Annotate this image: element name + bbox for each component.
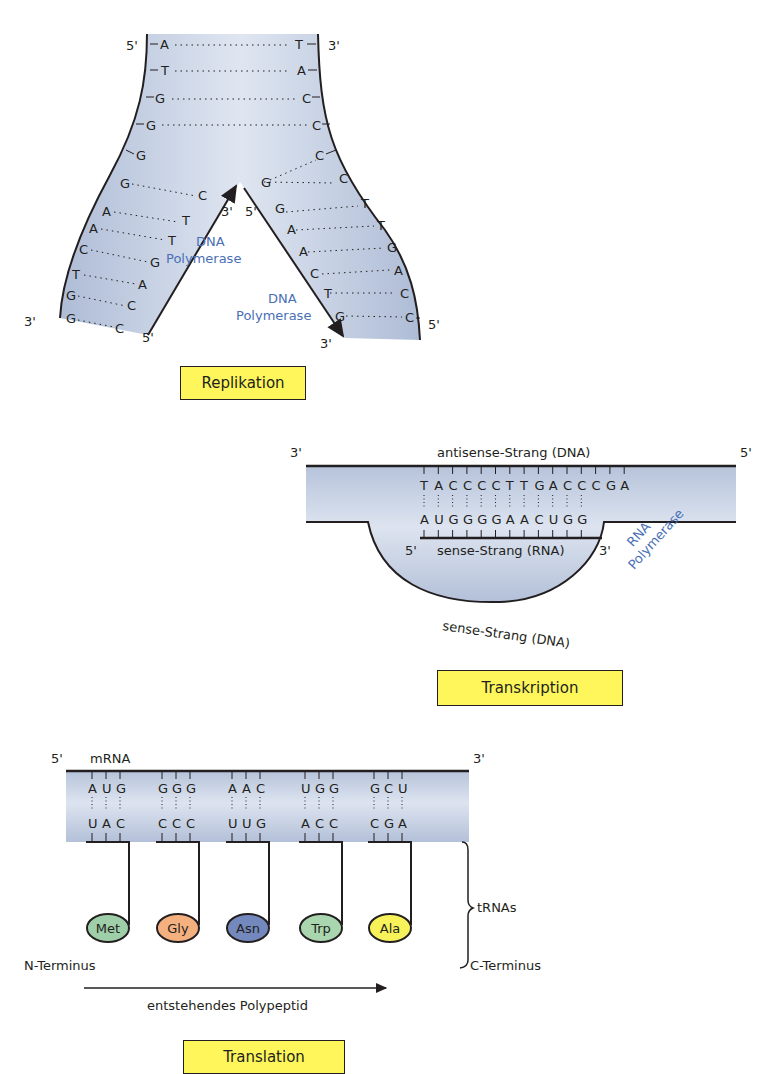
rna-base: U (549, 512, 559, 527)
base-left-new-1: T (181, 213, 190, 228)
base-right-template-6: C (400, 286, 409, 301)
codon-base: G (315, 781, 325, 796)
antisense-base: C (463, 478, 472, 493)
amino-acid-label: Ala (380, 921, 400, 936)
base-left-template-1: G (120, 176, 130, 191)
dna-polymerase-left-line1: DNA (196, 234, 225, 249)
translation-label: Translation (223, 1048, 305, 1066)
dna-polymerase-right-line2: Polymerase (236, 308, 311, 323)
end-label-fork-left: 3' (221, 204, 233, 219)
codon-base: G (370, 781, 380, 796)
antisense-base: G (534, 478, 544, 493)
antisense-base: C (449, 478, 458, 493)
base-left-template-0: G (136, 148, 146, 163)
end-label-bottom-left: 3' (24, 314, 36, 329)
base-parental-right-1: A (297, 63, 306, 78)
base-right-template-4: G (387, 240, 397, 255)
dna-polymerase-right-line1: DNA (268, 291, 297, 306)
anticodon-base: C (158, 816, 167, 831)
anticodon-base: C (329, 816, 338, 831)
antisense-strand-label: antisense-Strang (DNA) (437, 445, 590, 460)
base-left-template-3: A (89, 221, 98, 236)
anticodon-base: G (256, 816, 266, 831)
rna-3prime: 3' (599, 543, 611, 558)
base-left-new-0: C (198, 188, 207, 203)
anticodon-base: G (384, 816, 394, 831)
rna-base: G (492, 512, 502, 527)
rna-base: G (463, 512, 473, 527)
rna-base: G (477, 512, 487, 527)
replication-fork: A T T A G C G C G G C A T A (24, 34, 440, 351)
replikation-label-box: Replikation (180, 366, 306, 400)
anticodon-base: U (88, 816, 98, 831)
translation-diagram: 5' mRNA 3' AUUAGCMetGCGCGCGlyAUAUCGAsnUA… (24, 751, 541, 1013)
base-left-template-4: C (79, 242, 88, 257)
rna-base: C (534, 512, 543, 527)
base-parental-right-0: T (294, 37, 303, 52)
base-parental-left-0: A (160, 37, 169, 52)
base-right-new-4: C (310, 266, 319, 281)
base-parental-left-2: G (155, 91, 165, 106)
antisense-base: C (477, 478, 486, 493)
base-left-template-5: T (71, 267, 80, 282)
base-right-template-3: T (376, 218, 385, 233)
transkription-label: Transkription (482, 679, 579, 697)
base-right-new-3: A (299, 244, 308, 259)
end-label-top-left: 5' (126, 38, 138, 53)
base-right-template-7: C (405, 310, 414, 325)
antisense-base: A (549, 478, 558, 493)
antisense-base: A (620, 478, 629, 493)
trna-label: tRNAs (477, 900, 517, 915)
anticodon-base: U (242, 816, 252, 831)
c-terminus-label: C-Terminus (470, 958, 541, 973)
base-left-new-3: G (150, 255, 160, 270)
transkription-label-box: Transkription (437, 670, 623, 706)
base-right-new-5: T (323, 286, 332, 301)
codon-base: C (384, 781, 393, 796)
end-label-top-right: 3' (328, 38, 340, 53)
dna-polymerase-left-line2: Polymerase (166, 251, 241, 266)
antisense-base: C (492, 478, 501, 493)
codon-base: G (116, 781, 126, 796)
mrna-label: mRNA (90, 751, 130, 766)
rna-base: A (420, 512, 429, 527)
transcription-5prime: 5' (740, 445, 752, 460)
polypeptide-label: entstehendes Polypeptid (147, 998, 308, 1013)
base-left-new-6: C (115, 321, 124, 336)
antisense-base: C (577, 478, 586, 493)
codon-base: U (398, 781, 408, 796)
base-right-new-1: G (275, 201, 285, 216)
codon-base: G (158, 781, 168, 796)
base-right-template-5: A (394, 263, 403, 278)
anticodon-base: C (186, 816, 195, 831)
end-label-bottom-right: 5' (428, 317, 440, 332)
end-label-fork-right: 5' (245, 204, 257, 219)
anticodon-base: U (228, 816, 238, 831)
base-right-template-0: C (315, 148, 324, 163)
rna-base: A (520, 512, 529, 527)
transcription-bubble: 3' 5' antisense-Strang (DNA) TACCCCTTGAC… (290, 445, 752, 651)
mrna-3prime: 3' (473, 751, 485, 766)
codon-base: U (301, 781, 311, 796)
antisense-base: T (519, 478, 528, 493)
amino-acid-label: Met (96, 921, 120, 936)
base-left-new-2: T (167, 233, 176, 248)
rna-base: U (434, 512, 444, 527)
anticodon-base: A (102, 816, 111, 831)
rna-base: A (506, 512, 515, 527)
codon-base: G (186, 781, 196, 796)
base-right-template-2: T (360, 196, 369, 211)
base-left-new-5: C (127, 298, 136, 313)
rna-5prime: 5' (405, 543, 417, 558)
amino-acid-label: Trp (310, 921, 331, 936)
base-right-template-1: C (339, 171, 348, 186)
base-right-new-6: G (335, 309, 345, 324)
base-parental-left-1: T (160, 63, 169, 78)
anticodon-base: A (398, 816, 407, 831)
codon-base: A (242, 781, 251, 796)
antisense-base: A (434, 478, 443, 493)
fork-body (60, 34, 420, 340)
base-parental-left-3: G (146, 118, 156, 133)
anticodon-base: A (301, 816, 310, 831)
